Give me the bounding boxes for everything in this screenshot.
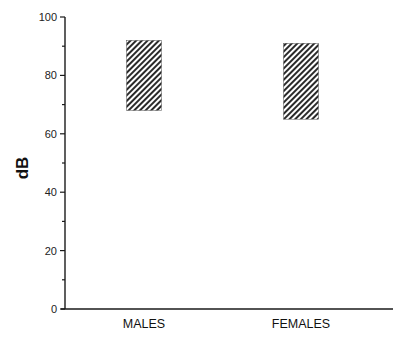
y-axis-label: dB xyxy=(13,157,32,180)
y-tick-label: 0 xyxy=(51,303,57,315)
range-bar-females xyxy=(284,43,319,119)
y-tick-label: 40 xyxy=(45,186,57,198)
category-label-males: MALES xyxy=(123,317,165,331)
category-labels: MALESFEMALES xyxy=(123,317,330,331)
y-tick-label: 80 xyxy=(45,69,57,81)
range-bar-chart: 020406080100 MALESFEMALES dB xyxy=(0,0,399,345)
y-tick-label: 20 xyxy=(45,245,57,257)
category-label-females: FEMALES xyxy=(272,317,330,331)
range-bar-males xyxy=(127,40,162,110)
y-tick-label: 60 xyxy=(45,128,57,140)
y-tick-label: 100 xyxy=(39,11,57,23)
y-axis: 020406080100 xyxy=(39,11,65,315)
bars xyxy=(127,40,319,119)
